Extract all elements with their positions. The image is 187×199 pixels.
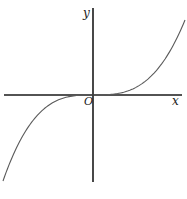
x-axis-label: x bbox=[172, 94, 179, 108]
origin-label: O bbox=[84, 95, 93, 108]
y-axis-label: y bbox=[82, 6, 90, 20]
series-layer bbox=[3, 20, 185, 181]
cubic-function-chart: y x O bbox=[0, 0, 187, 199]
series-line-cubic bbox=[3, 20, 185, 181]
